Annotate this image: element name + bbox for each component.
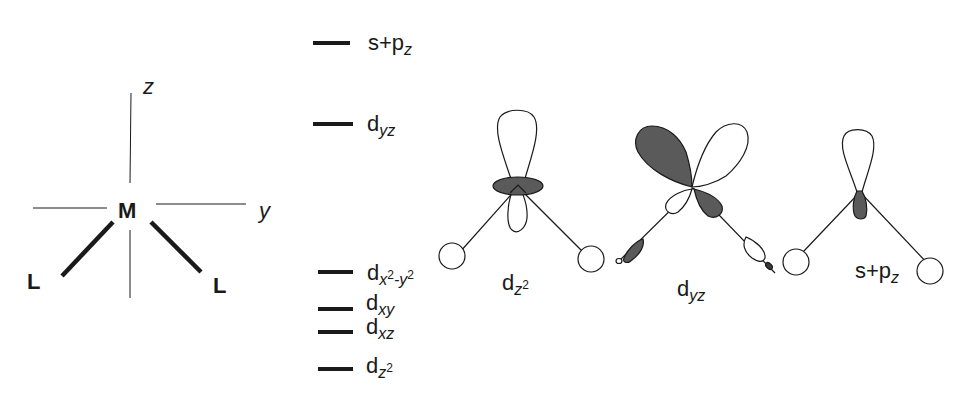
dyz-lobe-lower-right [694, 189, 722, 217]
energy-level-diagram: s+pz dyz dx2-y2 dxy dxz dz2 [313, 30, 414, 381]
ligand-right-label: L [213, 273, 226, 298]
coordinate-frame [33, 93, 246, 298]
level-label-s-pz: s+pz [368, 30, 412, 58]
s-pz-bond-right [860, 192, 929, 265]
dyz-ligand-right-lobe [744, 237, 765, 261]
orbital-dz2 [439, 110, 604, 272]
dz2-ligand-right [578, 246, 604, 272]
level-bar-dx2y2 [318, 270, 353, 274]
s-pz-ligand-left [783, 249, 809, 275]
level-label-dyz: dyz [367, 111, 395, 139]
s-pz-ligand-right [917, 258, 943, 284]
level-label-dx2y2: dx2-y2 [367, 260, 414, 288]
bond-left [62, 222, 113, 276]
orbital-label-s-pz: s+pz [855, 258, 899, 286]
level-bar-dz2 [318, 367, 353, 371]
bond-right [151, 222, 201, 272]
level-bar-dyz [313, 122, 353, 126]
dyz-lobe-upper-right [692, 124, 748, 187]
s-pz-lower-lobe [853, 191, 867, 219]
s-pz-bond-left [803, 192, 860, 252]
orbital-label-dyz: dyz [677, 276, 705, 304]
level-bar-dxy [318, 307, 353, 311]
s-pz-upper-lobe [842, 130, 873, 192]
z-axis-label: z [142, 74, 154, 99]
z-axis-upper [130, 93, 131, 183]
dyz-ligand-right-tip [764, 261, 773, 270]
ligand-left-label: L [27, 269, 40, 294]
level-bar-s-pz [313, 41, 350, 45]
level-bar-dxz [318, 330, 353, 334]
level-label-dz2: dz2 [366, 353, 393, 381]
dz2-lower-lobe [508, 192, 527, 232]
dyz-ligand-left-lobe [624, 239, 644, 262]
metal-label: M [118, 198, 136, 223]
dyz-ligand-left-tail [616, 259, 622, 264]
dyz-lobe-lower-left [666, 189, 692, 214]
orbital-label-dz2: dz2 [502, 270, 529, 298]
orbital-diagram-canvas: z y M L L s+pz dyz dx2-y2 dxy dxz dz2 [0, 0, 966, 401]
dz2-upper-lobe [497, 110, 536, 182]
y-axis-label: y [257, 198, 272, 223]
dz2-torus [493, 177, 543, 195]
dz2-ligand-left [439, 243, 465, 269]
orbital-dyz [616, 124, 775, 273]
dz2-bond-right [518, 187, 585, 254]
dyz-lobe-upper-left [636, 126, 692, 187]
level-label-dxz: dxz [366, 314, 394, 342]
